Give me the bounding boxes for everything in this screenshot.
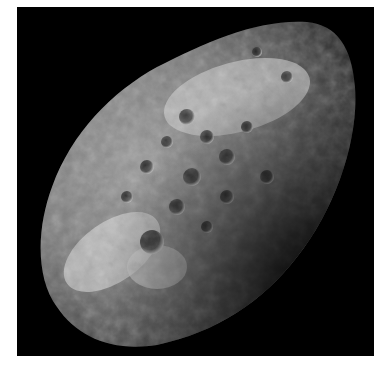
- photo-frame: [17, 7, 374, 356]
- moon-image: [17, 7, 374, 356]
